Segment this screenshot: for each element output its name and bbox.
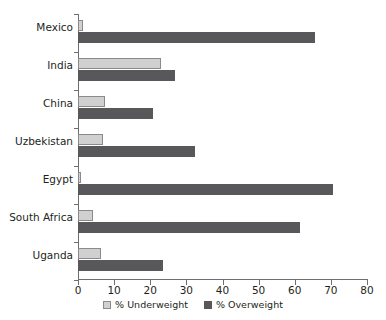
x-axis-tick-label: 10	[99, 284, 129, 296]
bar-group: China	[78, 90, 367, 128]
category-label: India	[47, 59, 73, 71]
legend-label-underweight: % Underweight	[115, 299, 188, 310]
x-axis-tick-label: 70	[316, 284, 346, 296]
bar-overweight	[78, 108, 153, 119]
category-label: Mexico	[36, 21, 73, 33]
y-axis-tick	[74, 204, 78, 205]
legend-item-underweight: % Underweight	[103, 299, 188, 310]
bar-overweight	[78, 184, 333, 195]
x-axis-tick-label: 80	[352, 284, 382, 296]
y-axis-tick	[74, 14, 78, 15]
y-axis-tick	[74, 90, 78, 91]
bar-overweight	[78, 146, 195, 157]
chart-legend: % Underweight % Overweight	[0, 299, 386, 310]
x-axis-tick-label: 30	[171, 284, 201, 296]
category-label: Uganda	[32, 249, 73, 261]
bar-overweight	[78, 222, 300, 233]
category-label: South Africa	[9, 211, 73, 223]
bar-overweight	[78, 260, 163, 271]
bar-group: Mexico	[78, 14, 367, 52]
bar-underweight	[78, 210, 93, 221]
bar-overweight	[78, 32, 315, 43]
bar-group: South Africa	[78, 204, 367, 242]
bar-underweight	[78, 172, 81, 183]
plot-area: MexicoIndiaChinaUzbekistanEgyptSouth Afr…	[78, 14, 367, 280]
bar-group: India	[78, 52, 367, 90]
x-axis-tick-label: 40	[208, 284, 238, 296]
x-axis-tick-label: 20	[135, 284, 165, 296]
legend-label-overweight: % Overweight	[216, 299, 283, 310]
legend-swatch-underweight-icon	[103, 301, 111, 309]
y-axis-tick	[74, 166, 78, 167]
y-axis-tick	[74, 128, 78, 129]
category-label: China	[43, 97, 73, 109]
bar-underweight	[78, 96, 105, 107]
category-label: Uzbekistan	[15, 135, 73, 147]
legend-item-overweight: % Overweight	[204, 299, 283, 310]
bar-underweight	[78, 134, 103, 145]
y-axis-tick	[74, 242, 78, 243]
bar-underweight	[78, 20, 83, 31]
y-axis-tick	[74, 52, 78, 53]
category-label: Egypt	[43, 173, 73, 185]
bar-underweight	[78, 248, 101, 259]
bar-overweight	[78, 70, 175, 81]
x-axis-tick-label: 0	[63, 284, 93, 296]
bar-chart: MexicoIndiaChinaUzbekistanEgyptSouth Afr…	[0, 0, 386, 320]
bar-group: Uzbekistan	[78, 128, 367, 166]
bar-underweight	[78, 58, 161, 69]
bar-group: Uganda	[78, 242, 367, 280]
bar-group: Egypt	[78, 166, 367, 204]
x-axis-tick-label: 60	[280, 284, 310, 296]
legend-swatch-overweight-icon	[204, 301, 212, 309]
x-axis-tick-label: 50	[244, 284, 274, 296]
